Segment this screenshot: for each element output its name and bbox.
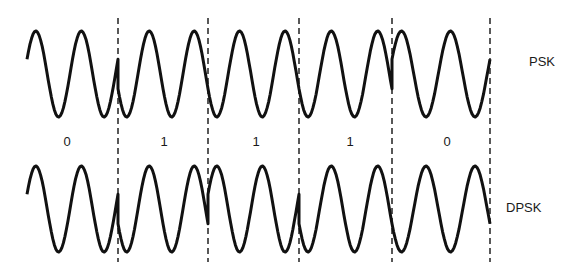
dpsk-label: DPSK [506, 200, 541, 215]
waveform-diagram [0, 0, 588, 276]
psk-waveform [27, 31, 490, 117]
bit-label-3: 1 [346, 134, 353, 149]
bit-label-2: 1 [252, 134, 259, 149]
bit-label-0: 0 [63, 134, 70, 149]
bit-boundary-lines [118, 18, 490, 262]
bit-label-1: 1 [160, 134, 167, 149]
dpsk-waveform [27, 166, 490, 252]
bit-label-4: 0 [443, 134, 450, 149]
psk-label: PSK [529, 54, 555, 69]
